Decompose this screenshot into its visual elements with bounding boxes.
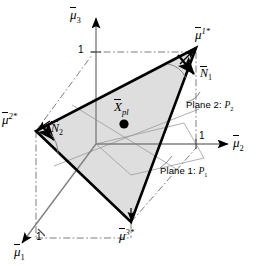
plane1-label: Plane 1: P1 [160, 166, 208, 178]
tick-label-mu2: 1 [199, 131, 205, 141]
normal-label-n1: N1 [200, 67, 212, 82]
axis-label-mu3-sub: 3 [77, 15, 81, 25]
axis-label-mu1-sub: 1 [21, 252, 25, 262]
vertex-label-mu3star: μ3* [119, 228, 134, 242]
centroid-label-sub: pl [122, 107, 129, 117]
vertex-label-mu1star: μ1* [195, 27, 210, 41]
vertex-label-mu3star-sup: 3* [126, 227, 135, 237]
geometry-figure: μ3 μ2 μ1 1 1 1 μ1* μ2* μ3* Xpl N1 N2 Pla… [0, 0, 257, 266]
normal-label-n2-sub: 2 [59, 128, 63, 137]
tick-label-mu3: 1 [78, 45, 84, 55]
axis-label-mu2-sub: 2 [240, 143, 244, 153]
plane2-symbol-sub: 2 [230, 105, 233, 112]
plane1-label-text: Plane 1: [160, 165, 198, 176]
plane1-symbol-sub: 1 [204, 171, 207, 178]
axis-label-mu1: μ1 [14, 245, 25, 261]
normal-label-n2: N2 [51, 122, 63, 137]
tick-label-mu1: 1 [36, 232, 42, 242]
vertex-label-mu2star-sup: 2* [9, 111, 18, 121]
axis-label-mu3: μ3 [70, 8, 81, 24]
axis-label-mu2: μ2 [233, 136, 244, 152]
centroid-label: Xpl [114, 100, 129, 116]
normal-label-n1-sub: 1 [208, 73, 212, 82]
centroid-point [119, 119, 128, 128]
vertex-label-mu2star: μ2* [2, 112, 17, 126]
plane2-label-text: Plane 2: [186, 99, 224, 110]
vertex-label-mu1star-sup: 1* [202, 26, 211, 36]
plane2-label: Plane 2: P2 [186, 100, 234, 112]
